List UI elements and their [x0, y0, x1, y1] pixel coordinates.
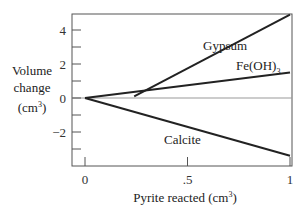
- x-tick-label: .5: [183, 172, 193, 187]
- x-tick-label: 0: [82, 172, 89, 187]
- y-tick-label: −2: [52, 125, 66, 140]
- ticks: −20240.51: [52, 23, 293, 187]
- x-axis-label: Pyrite reacted (cm3): [110, 190, 260, 206]
- annotation-gypsum: Gypsum: [203, 38, 247, 54]
- annotation-feoh3: Fe(OH)3: [236, 58, 280, 76]
- y-axis-label: Volume change (cm3): [2, 62, 62, 116]
- y-axis-label-line-1: Volume: [2, 62, 62, 79]
- x-tick-label: 1: [287, 172, 294, 187]
- y-axis-label-unit: (cm3): [2, 96, 62, 116]
- series-line-gypsum: [134, 15, 290, 97]
- annotation-calcite: Calcite: [164, 132, 201, 148]
- y-tick-label: 4: [60, 23, 67, 38]
- series-line-feoh3: [85, 73, 290, 99]
- y-axis-label-line-2: change: [2, 79, 62, 96]
